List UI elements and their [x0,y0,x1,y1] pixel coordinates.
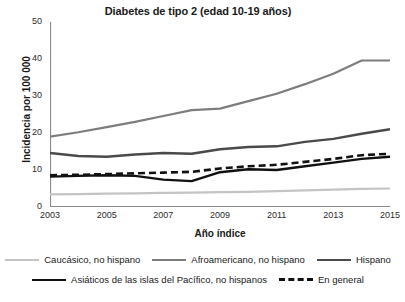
legend-swatch-icon [32,279,66,281]
y-axis-tick-label: 40 [20,53,42,63]
legend-label: En general [318,274,364,285]
legend-label: Afroamericano, no hispano [191,254,305,265]
x-axis-label: Año índice [50,228,390,239]
series-line [50,189,390,195]
legend-label: Asiáticos de las islas del Pacífico, no … [71,274,267,285]
x-axis-tick-label: 2005 [87,210,127,220]
plot-area [50,22,390,207]
legend-row-2: Asiáticos de las islas del Pacífico, no … [0,274,396,285]
legend-swatch-icon [152,259,186,261]
legend-label: Hispano [356,254,391,265]
legend-label: Caucásico, no hispano [44,254,140,265]
x-axis-tick-label: 2015 [370,210,405,220]
plot-svg [50,22,390,207]
axis-spines [51,22,391,207]
legend-swatch-icon [5,259,39,261]
x-axis-tick-label: 2009 [200,210,240,220]
series-line [50,60,390,136]
legend-item[interactable]: Hispano [317,254,391,265]
x-axis-tick-label: 2007 [143,210,183,220]
y-axis-tick-label: 10 [20,164,42,174]
x-axis-tick-label: 2011 [257,210,297,220]
x-axis-tick-label: 2003 [30,210,70,220]
legend-item[interactable]: Asiáticos de las islas del Pacífico, no … [32,274,267,285]
y-axis-tick-label: 20 [20,127,42,137]
y-axis-tick-label: 50 [20,16,42,26]
chart-legend: Caucásico, no hispanoAfroamericano, no h… [0,252,396,302]
legend-item[interactable]: Caucásico, no hispano [5,254,140,265]
legend-swatch-icon [317,259,351,261]
series-line [50,129,390,156]
y-axis-tick-label: 30 [20,90,42,100]
legend-swatch-icon [279,278,313,281]
legend-item[interactable]: Afroamericano, no hispano [152,254,305,265]
legend-item[interactable]: En general [279,274,364,285]
chart-title: Diabetes de tipo 2 (edad 10-19 años) [0,5,396,17]
legend-row-1: Caucásico, no hispanoAfroamericano, no h… [0,254,396,265]
x-axis-tick-label: 2013 [313,210,353,220]
